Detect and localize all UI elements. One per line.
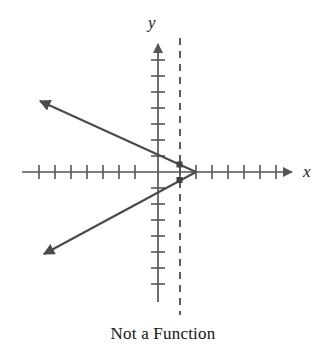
figure-caption: Not a Function	[0, 324, 326, 344]
coordinate-plane-graph	[0, 0, 326, 358]
intersection-point-lower	[177, 177, 183, 183]
x-axis-label: x	[303, 163, 311, 180]
y-axis	[151, 44, 165, 302]
x-axis	[22, 165, 292, 179]
y-axis-label: y	[148, 14, 156, 31]
intersection-point-upper	[177, 162, 183, 168]
figure-container: y x Not a Function	[0, 0, 326, 358]
relation-upper-ray	[40, 101, 196, 172]
relation-lower-ray	[44, 172, 196, 254]
